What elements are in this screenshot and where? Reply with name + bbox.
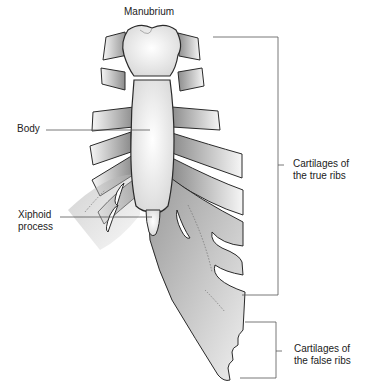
manubrium-shape xyxy=(123,25,181,76)
body-shape xyxy=(131,80,174,213)
label-xiphoid-process: Xiphoid process xyxy=(18,209,53,233)
label-body: Body xyxy=(17,123,40,135)
sternum-diagram: Manubrium Body Xiphoid process Cartilage… xyxy=(0,0,365,391)
label-cartilages-false-ribs: Cartilages of the false ribs xyxy=(294,343,351,367)
label-cartilages-true-ribs: Cartilages of the true ribs xyxy=(293,158,349,182)
sternum-illustration xyxy=(0,0,365,391)
label-manubrium: Manubrium xyxy=(124,6,174,18)
left-fan-shading xyxy=(68,174,140,250)
